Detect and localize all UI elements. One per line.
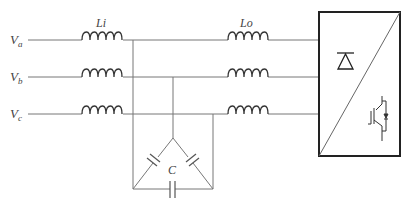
lcl-filter-diagram: Va Vb Vc Li Lo [0, 0, 413, 208]
inductor-li-a-icon [82, 32, 122, 40]
source-label-va: Va [10, 32, 23, 49]
converter-block [319, 12, 400, 156]
svg-text:Vb: Vb [10, 69, 23, 86]
capacitor-label: C [168, 163, 177, 177]
inductor-li-c-icon [82, 106, 122, 114]
source-label-vb: Vb [10, 69, 23, 86]
input-inductor-label: Li [95, 16, 106, 30]
inductor-lo-b-icon [228, 69, 268, 77]
source-label-vc: Vc [10, 106, 22, 123]
diode-icon [337, 53, 354, 69]
inductor-li-b-icon [82, 69, 122, 77]
svg-text:Va: Va [10, 32, 23, 49]
inductor-lo-a-icon [228, 32, 268, 40]
inductor-lo-c-icon [228, 106, 268, 114]
igbt-icon [368, 96, 388, 141]
output-inductor-label: Lo [239, 16, 253, 30]
svg-text:Vc: Vc [10, 106, 22, 123]
